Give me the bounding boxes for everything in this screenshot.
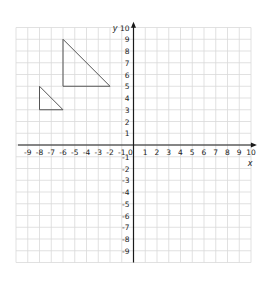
x-tick-label: 4 xyxy=(178,148,183,157)
y-tick-label: 4 xyxy=(125,94,130,103)
x-tick-label: -8 xyxy=(36,148,44,157)
x-tick-label: -4 xyxy=(83,148,91,157)
x-tick-label: 3 xyxy=(166,148,171,157)
y-tick-label: 6 xyxy=(125,71,130,80)
x-tick-label: 2 xyxy=(155,148,160,157)
x-tick-label: 1 xyxy=(143,148,148,157)
x-tick-label: -7 xyxy=(48,148,56,157)
x-tick-label: 9 xyxy=(237,148,242,157)
x-tick-label: -3 xyxy=(95,148,103,157)
y-tick-label: 3 xyxy=(125,106,130,115)
y-tick-label: -1 xyxy=(122,153,130,162)
y-tick-label: 9 xyxy=(125,35,130,44)
y-tick-label: -4 xyxy=(122,188,130,197)
y-tick-label: -9 xyxy=(122,247,130,256)
coordinate-grid: -9-8-7-6-5-4-3-2-10123456789101234567891… xyxy=(0,0,267,283)
y-tick-label: -5 xyxy=(122,200,130,209)
x-tick-label: 7 xyxy=(213,148,218,157)
x-tick-label: -2 xyxy=(106,148,114,157)
x-tick-label: -5 xyxy=(71,148,79,157)
y-tick-label: 10 xyxy=(120,24,130,33)
y-tick-label: -2 xyxy=(122,165,130,174)
y-tick-label: 1 xyxy=(125,129,130,138)
x-tick-label: 8 xyxy=(225,148,230,157)
x-tick-label: 10 xyxy=(246,148,256,157)
y-tick-label: 8 xyxy=(125,47,130,56)
x-tick-label: -9 xyxy=(24,148,32,157)
x-axis-arrow-icon xyxy=(251,143,257,148)
y-axis-label: y xyxy=(112,24,118,33)
y-axis-arrow-icon xyxy=(131,22,136,28)
y-tick-label: 2 xyxy=(125,118,130,127)
x-axis-label: x xyxy=(247,159,253,168)
y-tick-label: 5 xyxy=(125,82,130,91)
y-tick-label: -3 xyxy=(122,176,130,185)
x-tick-label: 6 xyxy=(202,148,207,157)
y-tick-label: -8 xyxy=(122,235,130,244)
tick-labels: -9-8-7-6-5-4-3-2-10123456789101234567891… xyxy=(24,24,256,256)
x-tick-label: 5 xyxy=(190,148,195,157)
x-tick-label: -6 xyxy=(59,148,67,157)
axes xyxy=(18,22,257,263)
y-tick-label: -7 xyxy=(122,223,130,232)
y-tick-label: 7 xyxy=(125,59,130,68)
y-tick-label: -6 xyxy=(122,212,130,221)
